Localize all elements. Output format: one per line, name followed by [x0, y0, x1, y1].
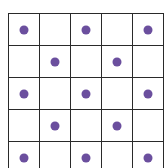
dot-marker — [20, 89, 29, 98]
grid-cell — [9, 142, 40, 168]
dot-marker — [20, 25, 29, 34]
grid-cell — [71, 110, 102, 142]
grid-cell — [9, 78, 40, 110]
grid-cell — [102, 14, 133, 46]
grid-cell — [71, 46, 102, 78]
grid-cell — [133, 78, 164, 110]
grid-cell — [133, 110, 164, 142]
grid-cell — [102, 110, 133, 142]
dot-marker — [20, 153, 29, 162]
grid-cell — [40, 110, 71, 142]
dot-grid — [8, 13, 164, 168]
grid-cell — [9, 46, 40, 78]
grid-cell — [40, 142, 71, 168]
grid-cell — [133, 142, 164, 168]
grid-cell — [40, 46, 71, 78]
grid-cell — [102, 46, 133, 78]
grid-cell — [40, 78, 71, 110]
dot-marker — [82, 153, 91, 162]
grid-cell — [9, 14, 40, 46]
grid-cell — [133, 14, 164, 46]
dot-marker — [144, 89, 153, 98]
dot-marker — [51, 121, 60, 130]
grid-cell — [71, 14, 102, 46]
grid-cell — [102, 142, 133, 168]
dot-marker — [82, 89, 91, 98]
dot-marker — [144, 153, 153, 162]
grid-cell — [102, 78, 133, 110]
dot-marker — [51, 57, 60, 66]
dot-marker — [113, 121, 122, 130]
grid-cell — [9, 110, 40, 142]
grid-cell — [133, 46, 164, 78]
grid-cell — [71, 142, 102, 168]
dot-marker — [113, 57, 122, 66]
dot-marker — [144, 25, 153, 34]
grid-cell — [71, 78, 102, 110]
dot-marker — [82, 25, 91, 34]
grid-cell — [40, 14, 71, 46]
